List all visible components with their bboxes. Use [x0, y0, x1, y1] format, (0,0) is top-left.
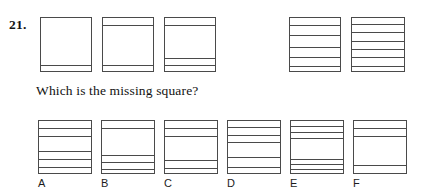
option-square-e[interactable] — [290, 120, 344, 174]
sequence-square-5-line-3 — [290, 47, 340, 48]
option-square-c-line-1 — [165, 128, 217, 129]
option-square-a-line-1 — [39, 128, 91, 129]
option-square-d-line-5 — [228, 167, 280, 168]
option-square-a-line-5 — [39, 167, 91, 168]
option-square-b-line-3 — [102, 162, 154, 163]
sequence-square-6-line-2 — [352, 32, 404, 33]
sequence-square-6-line-1 — [352, 24, 404, 25]
option-square-e-line-2 — [291, 132, 343, 133]
sequence-square-2-line-2 — [103, 65, 153, 66]
option-square-f[interactable] — [353, 120, 407, 174]
sequence-square-5-line-5 — [290, 66, 340, 67]
option-square-a-line-2 — [39, 136, 91, 137]
sequence-square-3-line-2 — [165, 58, 215, 59]
option-square-f-line-2 — [354, 136, 406, 137]
option-square-c[interactable] — [164, 120, 218, 174]
question-number: 21. — [9, 17, 26, 33]
sequence-square-5 — [289, 17, 341, 72]
sequence-square-5-line-1 — [290, 25, 340, 26]
sequence-square-5-line-4 — [290, 57, 340, 58]
option-square-c-line-4 — [165, 168, 217, 169]
sequence-square-3-line-3 — [165, 65, 215, 66]
option-square-c-line-2 — [165, 136, 217, 137]
option-square-e-line-6 — [291, 169, 343, 170]
option-square-d-line-1 — [228, 127, 280, 128]
sequence-square-1 — [40, 17, 92, 72]
sequence-square-1-line-1 — [41, 65, 91, 66]
sequence-square-3-line-1 — [165, 25, 215, 26]
option-square-f-line-3 — [354, 165, 406, 166]
sequence-square-6 — [351, 17, 405, 72]
option-square-b-line-4 — [102, 169, 154, 170]
option-square-d[interactable] — [227, 120, 281, 174]
sequence-square-4-missing-slot — [226, 17, 278, 72]
sequence-square-2 — [102, 17, 154, 72]
option-label-d: D — [227, 177, 235, 189]
option-square-e-line-3 — [291, 138, 343, 139]
option-square-e-line-4 — [291, 159, 343, 160]
option-square-d-line-2 — [228, 135, 280, 136]
sequence-square-6-line-3 — [352, 41, 404, 42]
question-prompt: Which is the missing square? — [36, 83, 198, 99]
sequence-square-6-line-5 — [352, 57, 404, 58]
option-square-f-line-1 — [354, 128, 406, 129]
sequence-square-6-line-4 — [352, 49, 404, 50]
option-square-e-line-1 — [291, 126, 343, 127]
option-square-e-line-5 — [291, 164, 343, 165]
option-label-c: C — [164, 177, 172, 189]
sequence-square-6-line-6 — [352, 66, 404, 67]
option-label-e: E — [290, 177, 297, 189]
option-square-d-line-4 — [228, 157, 280, 158]
sequence-square-3 — [164, 17, 216, 72]
option-label-a: A — [38, 177, 45, 189]
option-square-b-line-2 — [102, 155, 154, 156]
option-square-a-line-3 — [39, 151, 91, 152]
option-square-a[interactable] — [38, 120, 92, 174]
sequence-square-5-line-2 — [290, 35, 340, 36]
sequence-square-2-line-1 — [103, 25, 153, 26]
option-square-b-line-1 — [102, 128, 154, 129]
option-label-f: F — [353, 177, 360, 189]
option-label-b: B — [101, 177, 108, 189]
option-square-d-line-3 — [228, 142, 280, 143]
option-square-b[interactable] — [101, 120, 155, 174]
option-square-c-line-3 — [165, 160, 217, 161]
option-square-a-line-4 — [39, 159, 91, 160]
puzzle-page: 21. Which is the missing square? ABCDEF — [0, 0, 422, 194]
